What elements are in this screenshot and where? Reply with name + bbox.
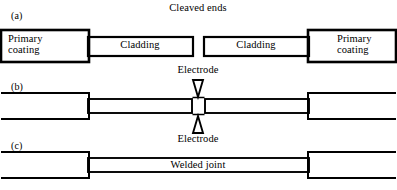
electrode-bottom-triangle-icon [193,116,203,133]
left-coating-outline-b [1,93,89,119]
right-primary-coating-label: Primary coating [337,33,372,56]
fusion-splice-figure: (a) Cleaved ends Primary coating Claddin… [0,0,397,190]
panel-letter-b: (b) [11,82,23,93]
welded-joint-label: Welded joint [171,159,226,170]
right-fiber-b [205,99,309,113]
panel-letter-a: (a) [11,11,22,22]
electrode-top-label: Electrode [177,64,218,75]
right-coating-outline-b [308,93,396,119]
electrode-bottom-label: Electrode [177,133,218,144]
splice-gap-guides [193,98,205,115]
panel-b-graphics [1,80,396,133]
electrode-top-triangle-icon [193,80,203,97]
right-cladding-label: Cladding [236,39,275,50]
left-primary-coating-label: Primary coating [8,33,43,56]
cleaved-ends-caption: Cleaved ends [169,2,226,13]
left-fiber-b [88,99,192,113]
panel-letter-c: (c) [11,141,22,152]
right-coating-outline-c [308,152,396,178]
left-coating-outline-c [1,152,89,178]
left-cladding-label: Cladding [120,39,159,50]
